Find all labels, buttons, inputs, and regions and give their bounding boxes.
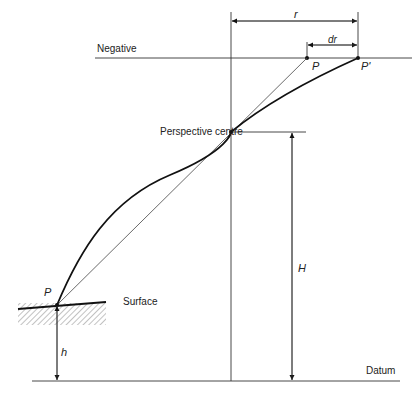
negative-label: Negative xyxy=(97,44,136,54)
p-ground-label: P xyxy=(44,287,51,298)
p-image-label: P xyxy=(312,61,319,72)
p-prime-label: P' xyxy=(361,61,370,72)
refracted-ray xyxy=(57,58,358,305)
relief-displacement-diagram xyxy=(0,0,419,403)
perspective-centre-label: Perspective centre xyxy=(160,127,243,137)
straight-ray xyxy=(57,58,307,305)
surface-label: Surface xyxy=(123,297,157,307)
dr-label: dr xyxy=(328,35,337,45)
datum-label: Datum xyxy=(366,366,395,376)
r-label: r xyxy=(294,9,298,20)
h-label: h xyxy=(61,347,67,358)
H-label: H xyxy=(298,263,306,274)
